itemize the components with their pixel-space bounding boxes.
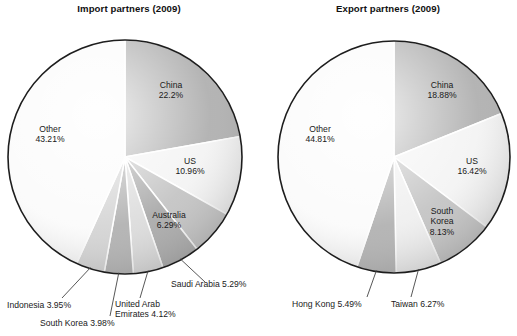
export-slice-label-other: Other 44.81% bbox=[287, 124, 353, 145]
export-slice-label-south-korea: South Korea 8.13% bbox=[418, 206, 466, 237]
export-outside-label-taiwan: Taiwan 6.27% bbox=[391, 299, 481, 309]
leader-line bbox=[411, 269, 419, 297]
export-slice-label-us: US 16.42% bbox=[444, 156, 500, 177]
import-partners-chart: Import partners (2009) China 22.2% US 10… bbox=[0, 0, 258, 336]
export-slice-label-china: China 18.88% bbox=[409, 80, 475, 101]
import-slice-label-us: US 10.96% bbox=[164, 156, 216, 177]
export-partners-chart: Export partners (2009) China 18.88% US 1… bbox=[259, 0, 517, 336]
import-outside-label-south-korea: South Korea 3.98% bbox=[40, 318, 150, 328]
import-outside-label-saudi-arabia: Saudi Arabia 5.29% bbox=[171, 279, 266, 289]
import-outside-label-uae: United Arab Emirates 4.12% bbox=[115, 299, 195, 320]
export-outside-label-hong-kong: Hong Kong 5.49% bbox=[292, 299, 397, 309]
import-slice-label-other: Other 43.21% bbox=[17, 124, 83, 145]
import-outside-label-indonesia: Indonesia 3.95% bbox=[7, 300, 107, 310]
leader-line bbox=[62, 268, 90, 298]
leader-line bbox=[367, 270, 376, 297]
import-slice-label-china: China 22.2% bbox=[139, 80, 203, 101]
import-slice-label-australia: Australia 6.29% bbox=[136, 210, 202, 231]
leader-line bbox=[140, 271, 148, 299]
pie-charts-figure: Import partners (2009) China 22.2% US 10… bbox=[0, 0, 517, 336]
